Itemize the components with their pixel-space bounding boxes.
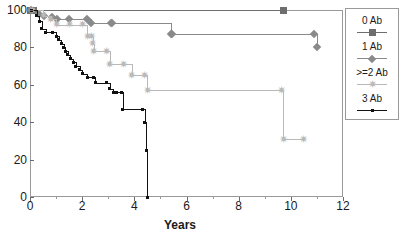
star-marker: ✷ [127, 71, 136, 80]
x-tick-minor-mark [213, 197, 214, 199]
square-marker [280, 7, 287, 14]
legend-label-1-ab: 1 Ab [346, 41, 398, 52]
dot-marker [141, 108, 144, 111]
dot-marker [72, 61, 75, 64]
y-axis: 020406080100 [0, 10, 27, 197]
dot-marker [120, 91, 123, 94]
dot-marker [57, 38, 60, 41]
star-marker: ✷ [119, 60, 128, 69]
star-marker: ✷ [279, 135, 288, 144]
dot-marker [78, 68, 81, 71]
dot-marker [38, 20, 41, 23]
x-tick-mark [187, 197, 188, 201]
dot-marker [55, 35, 58, 38]
series-segment [147, 90, 281, 91]
star-marker: ✷ [102, 47, 111, 56]
chart-legend: 0 Ab1 Ab>=2 Ab✷3 Ab [345, 8, 399, 120]
x-tick-mark [134, 197, 135, 201]
series-segment [123, 92, 124, 109]
x-tick-label: 12 [331, 200, 355, 213]
series-segment [112, 23, 171, 24]
dot-marker [371, 109, 374, 112]
dot-marker [51, 31, 54, 34]
dot-marker [108, 87, 111, 90]
y-tick-label: 40 [1, 116, 27, 128]
y-tick-label: 80 [1, 41, 27, 53]
x-tick-mark [343, 197, 344, 201]
dot-marker [115, 91, 118, 94]
x-tick-mark [291, 197, 292, 201]
series-segment [147, 150, 148, 197]
square-marker [369, 29, 376, 36]
series-segment [283, 90, 284, 139]
dot-marker [94, 81, 97, 84]
x-tick-minor-mark [265, 197, 266, 199]
dot-marker [81, 72, 84, 75]
y-tick-mark [30, 47, 34, 48]
star-marker: ✷ [89, 47, 98, 56]
x-tick-label: 0 [18, 200, 42, 213]
dot-marker [40, 27, 43, 30]
y-tick-mark [30, 85, 34, 86]
star-marker: ✷ [299, 135, 308, 144]
legend-label-3-ab: 3 Ab [346, 93, 398, 104]
legend-marker-dot-marker [346, 106, 398, 115]
dot-marker [121, 108, 124, 111]
legend-marker-diamond-marker [346, 54, 398, 63]
legend-marker-square-marker [346, 28, 398, 37]
dot-marker [105, 81, 108, 84]
dot-marker [145, 149, 148, 152]
plot-area: ✷✷✷✷✷✷✷✷✷✷✷✷✷✷✷✷✷✷✷ [30, 10, 343, 197]
x-tick-mark [239, 197, 240, 201]
series-segment [34, 10, 283, 11]
y-tick-label: 20 [1, 154, 27, 166]
x-tick-minor-mark [160, 197, 161, 199]
dot-marker [74, 65, 77, 68]
diamond-marker [368, 54, 376, 62]
legend-label--2-ab: >=2 Ab [346, 67, 398, 78]
star-marker: ✷ [277, 86, 286, 95]
dot-marker [146, 196, 149, 199]
x-tick-label: 6 [175, 200, 199, 213]
dot-marker [35, 14, 38, 17]
dot-marker [60, 42, 63, 45]
x-tick-label: 8 [227, 200, 251, 213]
star-marker: ✷ [368, 80, 377, 89]
y-tick-mark [30, 160, 34, 161]
x-tick-minor-mark [317, 197, 318, 199]
series-segment [172, 34, 314, 35]
series-segment [123, 109, 143, 110]
series-segment [146, 122, 147, 150]
dot-marker [69, 57, 72, 60]
x-tick-mark [30, 197, 31, 201]
star-marker: ✷ [143, 86, 152, 95]
star-marker: ✷ [65, 20, 74, 29]
dot-marker [143, 121, 146, 124]
diamond-marker [313, 43, 321, 51]
dot-marker [62, 46, 65, 49]
star-marker: ✷ [52, 20, 61, 29]
y-tick-label: 100 [1, 4, 27, 16]
y-tick-label: 60 [1, 79, 27, 91]
legend-label-0-ab: 0 Ab [346, 15, 398, 26]
x-tick-mark [82, 197, 83, 201]
legend-marker-star-marker: ✷ [346, 80, 398, 89]
star-marker: ✷ [78, 20, 87, 29]
dot-marker [64, 50, 67, 53]
dot-marker [66, 53, 69, 56]
x-tick-label: 2 [70, 200, 94, 213]
y-tick-mark [30, 10, 34, 11]
x-tick-label: 4 [122, 200, 146, 213]
dot-marker [92, 76, 95, 79]
chart-root: 020406080100 024681012 ✷✷✷✷✷✷✷✷✷✷✷✷✷✷✷✷✷… [0, 0, 402, 240]
star-marker: ✷ [140, 71, 149, 80]
x-tick-minor-mark [56, 197, 57, 199]
star-marker: ✷ [105, 60, 114, 69]
dot-marker [86, 76, 89, 79]
x-tick-label: 10 [279, 200, 303, 213]
dot-marker [44, 31, 47, 34]
x-axis-label: Years [0, 218, 360, 232]
x-tick-minor-mark [108, 197, 109, 199]
y-tick-mark [30, 122, 34, 123]
x-axis: 024681012 [0, 200, 402, 216]
